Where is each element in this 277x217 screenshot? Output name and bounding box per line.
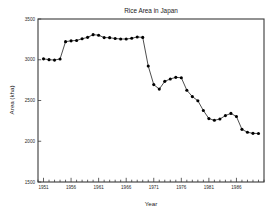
y-tick-label: 1500	[25, 180, 36, 185]
series-line	[44, 35, 259, 134]
data-point	[174, 76, 177, 79]
y-tick-label: 3500	[25, 17, 36, 22]
plot-frame	[38, 19, 264, 182]
x-tick-label: 1976	[176, 185, 187, 190]
data-point	[169, 77, 172, 80]
data-point	[70, 39, 73, 42]
data-point	[81, 37, 84, 40]
series-markers	[42, 33, 260, 135]
data-point	[42, 57, 45, 60]
data-point	[92, 33, 95, 36]
data-point	[196, 99, 199, 102]
chart-title: Rice Area in Japan	[124, 7, 178, 15]
data-point	[97, 34, 100, 37]
data-point	[180, 76, 183, 79]
data-point	[59, 57, 62, 60]
y-tick-label: 2000	[25, 139, 36, 144]
data-point	[53, 59, 56, 62]
data-point	[207, 117, 210, 120]
data-point	[114, 37, 117, 40]
data-point	[224, 114, 227, 117]
x-tick-label: 1956	[66, 185, 77, 190]
y-tick-label: 2500	[25, 98, 36, 103]
data-point	[136, 35, 139, 38]
data-point	[213, 119, 216, 122]
data-point	[147, 64, 150, 67]
x-tick-label: 1981	[204, 185, 215, 190]
y-axis-ticks: 15002000250030003500	[25, 17, 41, 185]
x-tick-label: 1966	[121, 185, 132, 190]
data-point	[235, 115, 238, 118]
x-axis-ticks: 19511956196119661971197619811986	[38, 178, 242, 190]
data-point	[251, 132, 254, 135]
data-point	[229, 112, 232, 115]
data-series	[42, 33, 260, 135]
data-point	[185, 89, 188, 92]
data-point	[119, 37, 122, 40]
data-point	[125, 38, 128, 41]
data-point	[257, 132, 260, 135]
data-point	[103, 36, 106, 39]
data-point	[191, 95, 194, 98]
x-tick-label: 1971	[149, 185, 160, 190]
data-point	[130, 37, 133, 40]
x-tick-label: 1951	[38, 185, 49, 190]
data-point	[47, 58, 50, 61]
data-point	[163, 80, 166, 83]
data-point	[86, 36, 89, 39]
data-point	[75, 39, 78, 42]
data-point	[64, 40, 67, 43]
x-axis-title: Year	[145, 200, 158, 207]
data-point	[158, 88, 161, 91]
data-point	[218, 117, 221, 120]
chart-figure: 15002000250030003500 1951195619611966197…	[0, 0, 277, 217]
x-tick-label: 1961	[94, 185, 105, 190]
rice-area-line-chart: 15002000250030003500 1951195619611966197…	[0, 0, 277, 217]
data-point	[108, 36, 111, 39]
data-point	[246, 131, 249, 134]
x-tick-label: 1986	[231, 185, 242, 190]
data-point	[141, 36, 144, 39]
y-axis-title: Area (kha)	[8, 86, 15, 115]
y-tick-label: 3000	[25, 57, 36, 62]
data-point	[240, 128, 243, 131]
data-point	[202, 109, 205, 112]
data-point	[152, 83, 155, 86]
